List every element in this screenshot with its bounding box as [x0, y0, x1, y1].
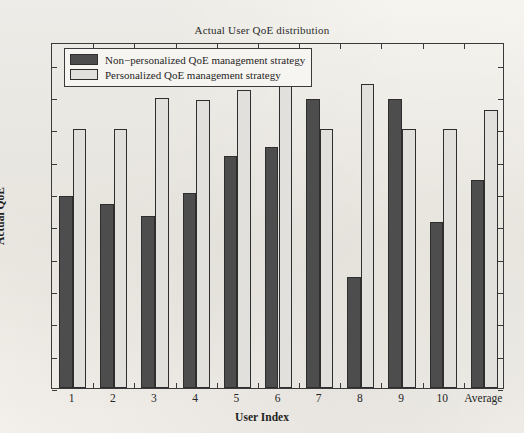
y-axis-tick: [52, 358, 57, 359]
bar: [484, 110, 498, 388]
x-axis-tick-top: [464, 44, 465, 49]
bar: [430, 222, 444, 388]
chart-legend: Non−personalized QoE management strategy…: [64, 48, 312, 87]
bar: [59, 196, 73, 388]
x-axis-tick: [134, 383, 135, 388]
x-axis-tick: [299, 383, 300, 388]
legend-label-personalized: Personalized QoE management strategy: [105, 69, 281, 81]
x-axis-tick-label: 6: [275, 392, 281, 404]
y-axis-tick: [52, 164, 57, 165]
x-axis-tick: [217, 383, 218, 388]
y-axis-tick-right: [498, 99, 503, 100]
y-axis-tick-right: [498, 261, 503, 262]
plot-area: [52, 44, 503, 388]
x-axis-tick-label: 7: [316, 392, 322, 404]
x-axis-tick-top: [340, 44, 341, 49]
y-axis-tick: [52, 228, 57, 229]
x-axis-tick-label: 1: [69, 392, 75, 404]
bar: [306, 99, 320, 388]
x-axis-tick-label: 4: [192, 392, 198, 404]
x-axis-tick: [340, 383, 341, 388]
y-axis-tick: [52, 99, 57, 100]
x-axis-tick: [176, 383, 177, 388]
y-axis-tick-right: [498, 131, 503, 132]
x-axis-tick-label: 8: [357, 392, 363, 404]
y-axis-tick-right: [498, 390, 503, 391]
y-axis-tick: [52, 131, 57, 132]
legend-item: Personalized QoE management strategy: [70, 67, 305, 82]
bar: [443, 129, 457, 388]
x-axis-tick: [464, 383, 465, 388]
x-axis-tick-label: 2: [110, 392, 116, 404]
x-axis-tick: [258, 383, 259, 388]
legend-label-non-personalized: Non−personalized QoE management strategy: [105, 54, 305, 66]
x-axis-tick-top: [217, 44, 218, 49]
chart-figure: Actual User QoE distribution Actual QoE …: [0, 0, 524, 433]
x-axis-tick-label: 3: [151, 392, 157, 404]
x-axis-tick-label: 10: [436, 392, 448, 404]
chart-title: Actual User QoE distribution: [0, 24, 524, 36]
bar: [388, 99, 402, 388]
x-axis-title: User Index: [0, 411, 524, 423]
x-axis-tick: [381, 383, 382, 388]
y-axis-tick-right: [498, 293, 503, 294]
bar: [237, 90, 251, 388]
y-axis-tick: [52, 390, 57, 391]
bar: [471, 180, 485, 388]
x-axis-tick-top: [299, 44, 300, 49]
x-axis-tick-label: 5: [233, 392, 239, 404]
bar: [183, 193, 197, 388]
x-axis-tick: [423, 383, 424, 388]
y-axis-tick: [52, 67, 57, 68]
x-axis-tick-label: Average: [464, 392, 502, 404]
y-axis-tick: [52, 325, 57, 326]
x-axis-tick-top: [93, 44, 94, 49]
legend-item: Non−personalized QoE management strategy: [70, 52, 305, 67]
x-axis-tick: [93, 383, 94, 388]
y-axis-title: Actual QoE: [0, 187, 6, 245]
x-axis-tick-top: [134, 44, 135, 49]
bar: [361, 84, 375, 388]
y-axis-tick-right: [498, 325, 503, 326]
bar: [100, 204, 114, 388]
bar: [402, 129, 416, 388]
x-axis-tick-top: [176, 44, 177, 49]
bar: [196, 100, 210, 388]
legend-swatch-non-personalized: [70, 54, 98, 65]
bar: [279, 86, 293, 388]
y-axis-tick-right: [498, 358, 503, 359]
bar: [347, 277, 361, 388]
y-axis-tick-right: [498, 228, 503, 229]
bar: [141, 216, 155, 388]
x-axis-tick-top: [381, 44, 382, 49]
x-axis-tick-label: 9: [398, 392, 404, 404]
y-axis-tick-right: [498, 196, 503, 197]
bar: [114, 129, 128, 388]
bar: [224, 156, 238, 388]
x-axis-tick-top: [258, 44, 259, 49]
bar: [155, 98, 169, 388]
plot-frame: Non−personalized QoE management strategy…: [51, 43, 504, 389]
bar: [265, 147, 279, 388]
legend-swatch-personalized: [70, 69, 98, 80]
y-axis-tick-right: [498, 164, 503, 165]
bar: [73, 129, 87, 388]
y-axis-tick: [52, 196, 57, 197]
y-axis-tick-right: [498, 67, 503, 68]
y-axis-tick: [52, 261, 57, 262]
y-axis-tick: [52, 293, 57, 294]
x-axis-tick-top: [423, 44, 424, 49]
bar: [320, 129, 334, 388]
